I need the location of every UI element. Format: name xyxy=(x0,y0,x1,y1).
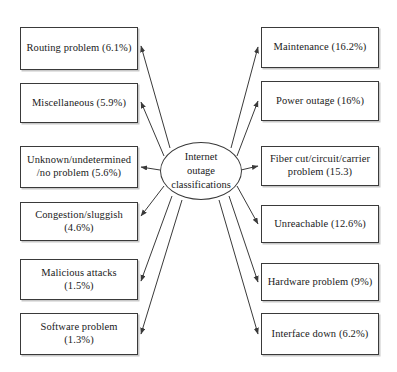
outage-classification-diagram: Internet outage classifications Routing … xyxy=(0,0,397,372)
edge-to-congestion-sluggish xyxy=(141,186,164,216)
node-hardware-problem-label: Hardware problem (9%) xyxy=(268,276,373,289)
edge-to-interface-down xyxy=(219,200,258,334)
node-fiber-cut-circuit-carrier: Fiber cut/circuit/carrier problem (15.3) xyxy=(261,146,379,186)
node-malicious-attacks: Malicious attacks (1.5%) xyxy=(20,259,138,300)
node-maintenance-label: Maintenance (16.2%) xyxy=(274,41,367,54)
node-congestion-sluggish-label: Congestion/sluggish (4.6%) xyxy=(35,209,123,235)
node-maintenance: Maintenance (16.2%) xyxy=(261,27,379,68)
node-fiber-cut-circuit-carrier-label: Fiber cut/circuit/carrier problem (15.3) xyxy=(270,153,370,179)
node-routing-problem-label: Routing problem (6.1%) xyxy=(26,42,131,55)
node-hardware-problem: Hardware problem (9%) xyxy=(261,263,379,301)
edge-to-software-problem xyxy=(141,200,182,334)
edge-to-power-outage xyxy=(237,101,258,156)
edge-to-unknown-undetermined xyxy=(141,167,160,170)
edge-to-hardware-problem xyxy=(229,196,258,282)
node-congestion-sluggish: Congestion/sluggish (4.6%) xyxy=(20,202,138,241)
node-power-outage: Power outage (16%) xyxy=(261,81,379,121)
node-power-outage-label: Power outage (16%) xyxy=(276,95,364,108)
node-routing-problem: Routing problem (6.1%) xyxy=(20,27,138,70)
node-interface-down: Interface down (6.2%) xyxy=(261,313,379,355)
node-unknown-undetermined-label: Unknown/undetermined /no problem (5.6%) xyxy=(27,154,131,180)
node-malicious-attacks-label: Malicious attacks (1.5%) xyxy=(41,267,116,293)
node-interface-down-label: Interface down (6.2%) xyxy=(272,328,369,341)
node-unreachable-label: Unreachable (12.6%) xyxy=(274,218,366,231)
edge-to-unreachable xyxy=(237,186,258,224)
node-unreachable: Unreachable (12.6%) xyxy=(261,205,379,243)
edge-to-malicious-attacks xyxy=(141,196,172,281)
center-node-internet-outage-classifications: Internet outage classifications xyxy=(160,142,242,200)
node-unknown-undetermined: Unknown/undetermined /no problem (5.6%) xyxy=(20,146,138,188)
edge-to-miscellaneous xyxy=(141,102,164,156)
edge-to-fiber-cut xyxy=(241,166,258,170)
center-node-label: Internet outage classifications xyxy=(171,150,230,192)
edge-to-routing-problem xyxy=(141,46,170,148)
node-miscellaneous: Miscellaneous (5.9%) xyxy=(20,83,138,123)
edge-to-maintenance xyxy=(231,47,258,148)
node-software-problem: Software problem (1.3%) xyxy=(20,313,138,355)
node-software-problem-label: Software problem (1.3%) xyxy=(40,321,117,347)
node-miscellaneous-label: Miscellaneous (5.9%) xyxy=(32,97,126,110)
